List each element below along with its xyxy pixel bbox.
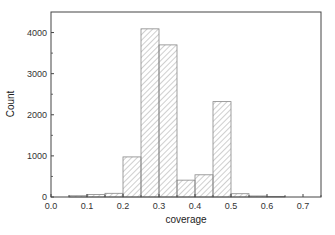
y-tick-label: 4000	[27, 28, 47, 38]
x-tick-label: 0.6	[261, 201, 274, 211]
x-tick-label: 0.3	[153, 201, 166, 211]
y-axis-ticks: 01000200030004000	[27, 28, 54, 202]
histogram-bar	[177, 180, 195, 197]
histogram-bar	[159, 45, 177, 197]
x-tick-label: 0.4	[189, 201, 202, 211]
x-tick-label: 0.2	[117, 201, 130, 211]
x-tick-label: 0.0	[45, 201, 58, 211]
y-tick-label: 2000	[27, 110, 47, 120]
y-tick-label: 1000	[27, 151, 47, 161]
x-axis-title: coverage	[165, 214, 207, 225]
plot-frame	[51, 12, 321, 197]
y-tick-label: 0	[42, 192, 47, 202]
y-tick-label: 3000	[27, 69, 47, 79]
histogram-bar	[213, 102, 231, 197]
x-tick-label: 0.7	[297, 201, 310, 211]
histogram-bars	[69, 29, 285, 197]
histogram-bar	[123, 157, 141, 197]
histogram-bar	[141, 29, 159, 197]
histogram-bar	[105, 193, 123, 197]
x-tick-label: 0.5	[225, 201, 238, 211]
x-tick-label: 0.1	[81, 201, 94, 211]
histogram-chart: 0.00.10.20.30.40.50.60.7 010002000300040…	[0, 0, 335, 235]
histogram-bar	[195, 175, 213, 197]
y-axis-title: Count	[5, 90, 16, 117]
